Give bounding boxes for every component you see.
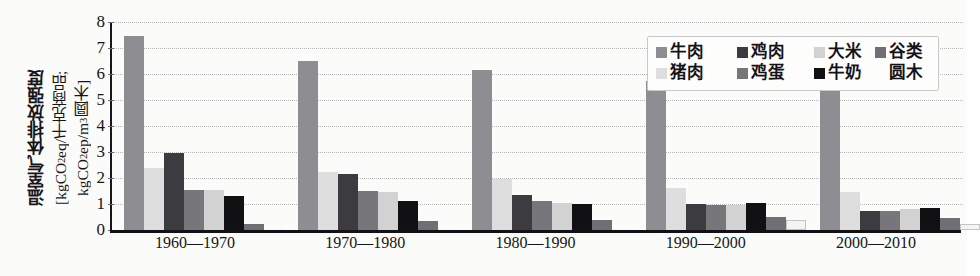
bar: [438, 229, 458, 230]
y-axis-title-line-1: 温室气体排放强度: [26, 0, 48, 276]
x-axis-label: 1980—1990: [496, 234, 576, 252]
legend-item-鸡蛋[interactable]: 鸡蛋: [737, 65, 814, 82]
y-axis-title-line-2-pre: [kgCO: [52, 163, 70, 205]
legend-swatch-icon: [875, 68, 886, 79]
bar: [244, 224, 264, 231]
bar: [646, 81, 666, 231]
bar: [184, 190, 204, 230]
bar: [746, 203, 766, 230]
bar: [318, 172, 338, 231]
bar: [666, 188, 686, 230]
legend-swatch-icon: [737, 68, 748, 79]
y-axis-title-line-3-sub: 2: [78, 154, 89, 159]
x-axis-label: 1970—1980: [325, 234, 405, 252]
bar: [472, 70, 492, 230]
bar: [880, 211, 900, 230]
legend-swatch-icon: [656, 68, 667, 79]
bar: [960, 224, 980, 231]
y-axis-title-line-3-sup: 3: [78, 117, 89, 122]
bar: [860, 211, 880, 231]
bar: [900, 209, 920, 230]
legend-item-猪肉[interactable]: 猪肉: [656, 65, 737, 82]
bar: [378, 192, 398, 230]
bar: [298, 61, 318, 230]
bar: [820, 87, 840, 230]
legend-swatch-icon: [656, 47, 667, 58]
bar: [706, 205, 726, 230]
bar: [920, 208, 940, 230]
bar: [686, 204, 706, 230]
bar: [492, 179, 512, 230]
legend-item-大米[interactable]: 大米: [814, 44, 875, 61]
bar-group: [284, 22, 458, 230]
legend-label: 圆木: [889, 65, 923, 82]
legend-row: 牛肉鸡肉大米谷类: [656, 42, 930, 63]
x-axis-line: [110, 230, 961, 233]
bar: [338, 174, 358, 230]
y-axis-title-line-3-post: 圆木]: [72, 80, 94, 117]
legend-label: 大米: [828, 44, 862, 61]
legend-item-圆木[interactable]: 圆木: [875, 65, 930, 82]
legend-label: 猪肉: [670, 65, 704, 82]
bar-group: [110, 22, 284, 230]
bar: [124, 36, 144, 230]
legend-label: 鸡肉: [751, 44, 785, 61]
y-axis-title-line-3-mid: ep/m: [74, 123, 92, 154]
bar: [512, 195, 532, 230]
bar: [418, 221, 438, 230]
bar: [144, 168, 164, 230]
bar: [164, 153, 184, 230]
y-axis-title-line-2-sub: 2: [56, 158, 67, 163]
y-axis-title-line-3: kgCO2ep/m3圆木]: [72, 0, 94, 276]
legend-swatch-icon: [814, 47, 825, 58]
legend-item-牛肉[interactable]: 牛肉: [656, 44, 737, 61]
legend-label: 牛奶: [828, 65, 862, 82]
legend-swatch-icon: [875, 47, 886, 58]
legend-label: 谷类: [889, 44, 923, 61]
bar-group: [458, 22, 632, 230]
bar: [532, 201, 552, 230]
legend-label: 鸡蛋: [751, 65, 785, 82]
x-axis-label: 1990—2000: [666, 234, 746, 252]
bar: [940, 218, 960, 230]
legend-item-鸡肉[interactable]: 鸡肉: [737, 44, 814, 61]
bar: [398, 201, 418, 230]
bar: [224, 196, 244, 230]
bar: [572, 204, 592, 230]
legend-swatch-icon: [737, 47, 748, 58]
x-axis-label: 1960—1970: [155, 234, 235, 252]
bar: [358, 191, 378, 230]
legend-swatch-icon: [814, 68, 825, 79]
bar: [786, 220, 806, 230]
bar: [766, 217, 786, 230]
bar: [204, 190, 224, 230]
legend-item-谷类[interactable]: 谷类: [875, 44, 930, 61]
y-axis-title-line-2-post: eq/千克商品;: [50, 71, 72, 158]
x-axis-label: 2000—2010: [836, 234, 916, 252]
bar: [840, 192, 860, 230]
legend-item-牛奶[interactable]: 牛奶: [814, 65, 875, 82]
chart-legend: 牛肉鸡肉大米谷类猪肉鸡蛋牛奶圆木: [647, 36, 939, 91]
bar: [612, 229, 632, 230]
legend-label: 牛肉: [670, 44, 704, 61]
bar: [264, 229, 284, 230]
y-axis-title-line-3-pre: kgCO: [74, 159, 92, 196]
y-axis-title: 温室气体排放强度 [kgCO2eq/千克商品; kgCO2ep/m3圆木]: [0, 0, 108, 276]
bar: [726, 205, 746, 230]
y-axis-title-line-2: [kgCO2eq/千克商品;: [50, 0, 72, 276]
legend-row: 猪肉鸡蛋牛奶圆木: [656, 63, 930, 84]
bar: [552, 203, 572, 230]
bar: [592, 220, 612, 230]
